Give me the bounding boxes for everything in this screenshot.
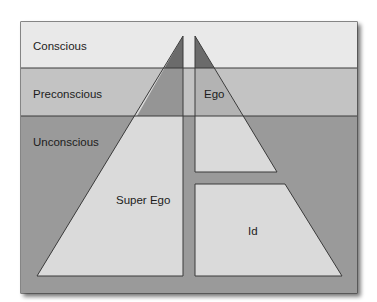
- label-super-ego: Super Ego: [116, 194, 170, 206]
- label-preconscious: Preconscious: [33, 88, 102, 100]
- label-ego: Ego: [204, 88, 224, 100]
- label-unconscious: Unconscious: [33, 136, 99, 148]
- psyche-diagram: Conscious Preconscious Unconscious Super…: [0, 0, 377, 302]
- label-conscious: Conscious: [33, 40, 87, 52]
- label-id: Id: [248, 225, 258, 237]
